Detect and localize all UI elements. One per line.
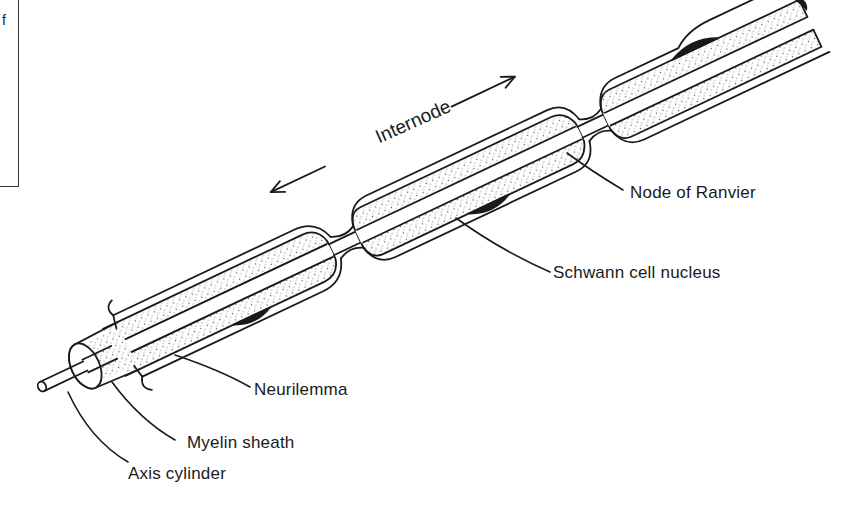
nerve-fiber-diagram: f bbox=[0, 0, 855, 521]
leader-axis-cylinder bbox=[68, 392, 128, 462]
leader-myelin bbox=[112, 382, 175, 440]
label-schwann-cell-nucleus: Schwann cell nucleus bbox=[553, 263, 720, 283]
leader-neurilemma bbox=[175, 355, 250, 387]
internode-segment-3 bbox=[586, 0, 829, 151]
label-node-of-ranvier: Node of Ranvier bbox=[630, 183, 756, 203]
fiber-illustration bbox=[0, 0, 855, 521]
internode-segment-1 bbox=[100, 217, 351, 383]
label-neurilemma: Neurilemma bbox=[254, 380, 348, 400]
label-axis-cylinder: Axis cylinder bbox=[128, 464, 226, 484]
label-myelin-sheath: Myelin sheath bbox=[187, 433, 295, 453]
leader-schwann-nucleus bbox=[456, 218, 550, 272]
